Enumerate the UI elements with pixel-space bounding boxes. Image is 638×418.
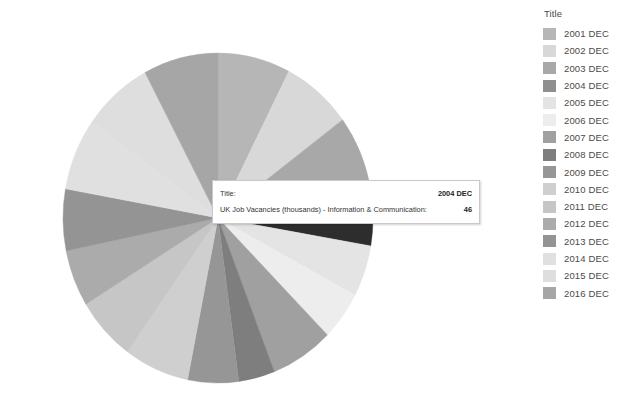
legend-item[interactable]: 2011 DEC (543, 198, 638, 215)
legend-swatch-icon (543, 149, 556, 161)
legend-swatch-icon (543, 28, 556, 40)
legend-swatch-icon (543, 253, 556, 265)
legend-swatch-icon (543, 270, 556, 282)
legend-item[interactable]: 2014 DEC (543, 250, 638, 267)
legend-item-label: 2015 DEC (564, 270, 609, 281)
legend-item[interactable]: 2010 DEC (543, 181, 638, 198)
legend-item-label: 2014 DEC (564, 253, 609, 264)
legend-swatch-icon (543, 45, 556, 57)
legend-item-label: 2010 DEC (564, 184, 609, 195)
legend-swatch-icon (543, 131, 556, 143)
legend-swatch-icon (543, 201, 556, 213)
legend-item[interactable]: 2007 DEC (543, 129, 638, 146)
legend-item[interactable]: 2004 DEC (543, 77, 638, 94)
legend-swatch-icon (543, 166, 556, 178)
chart-page: Title 2001 DEC2002 DEC2003 DEC2004 DEC20… (0, 0, 638, 418)
legend-item-label: 2013 DEC (564, 236, 609, 247)
legend-swatch-icon (543, 287, 556, 299)
legend-item-label: 2005 DEC (564, 97, 609, 108)
legend-item[interactable]: 2013 DEC (543, 233, 638, 250)
legend-item-label: 2003 DEC (564, 63, 609, 74)
tooltip-measure-value: 46 (464, 203, 472, 216)
legend-swatch-icon (543, 62, 556, 74)
legend-item-label: 2002 DEC (564, 45, 609, 56)
legend-item-label: 2009 DEC (564, 167, 609, 178)
tooltip-row-measure: UK Job Vacancies (thousands) - Informati… (220, 203, 472, 216)
legend-item[interactable]: 2009 DEC (543, 163, 638, 180)
legend-item[interactable]: 2006 DEC (543, 111, 638, 128)
legend-swatch-icon (543, 114, 556, 126)
legend-swatch-icon (543, 218, 556, 230)
legend-item[interactable]: 2008 DEC (543, 146, 638, 163)
legend-item-list: 2001 DEC2002 DEC2003 DEC2004 DEC2005 DEC… (543, 25, 638, 302)
legend-item-label: 2001 DEC (564, 28, 609, 39)
legend-swatch-icon (543, 183, 556, 195)
legend-item-label: 2016 DEC (564, 288, 609, 299)
legend-item[interactable]: 2003 DEC (543, 60, 638, 77)
legend-item[interactable]: 2016 DEC (543, 284, 638, 301)
tooltip: Title: 2004 DEC UK Job Vacancies (thousa… (212, 180, 480, 224)
legend-item[interactable]: 2001 DEC (543, 25, 638, 42)
legend-item-label: 2006 DEC (564, 115, 609, 126)
legend-item[interactable]: 2015 DEC (543, 267, 638, 284)
legend-item[interactable]: 2002 DEC (543, 42, 638, 59)
legend-item-label: 2004 DEC (564, 80, 609, 91)
tooltip-title-key: Title: (220, 187, 236, 200)
legend-item-label: 2007 DEC (564, 132, 609, 143)
legend-swatch-icon (543, 235, 556, 247)
legend-swatch-icon (543, 80, 556, 92)
legend-item-label: 2012 DEC (564, 218, 609, 229)
legend-item[interactable]: 2012 DEC (543, 215, 638, 232)
tooltip-title-value: 2004 DEC (438, 187, 472, 200)
legend: Title 2001 DEC2002 DEC2003 DEC2004 DEC20… (543, 8, 638, 302)
tooltip-measure-key: UK Job Vacancies (thousands) - Informati… (220, 203, 427, 216)
legend-item-label: 2011 DEC (564, 201, 608, 212)
legend-title: Title (544, 8, 638, 19)
legend-item[interactable]: 2005 DEC (543, 94, 638, 111)
tooltip-row-title: Title: 2004 DEC (220, 187, 472, 200)
legend-item-label: 2008 DEC (564, 149, 609, 160)
legend-swatch-icon (543, 97, 556, 109)
